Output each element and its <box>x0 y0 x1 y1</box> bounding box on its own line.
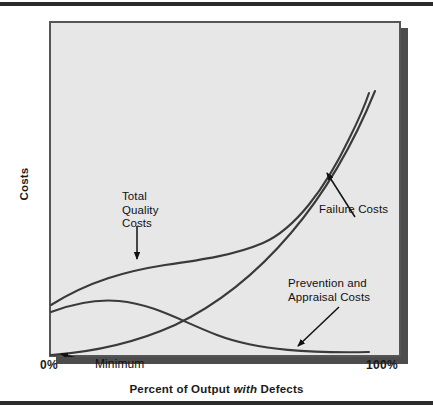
annotation-prevention-appraisal-costs: Prevention and Appraisal Costs <box>288 277 370 304</box>
annotation-failure-costs: Failure Costs <box>319 203 388 217</box>
annotation-total-quality-costs: Total Quality Costs <box>122 190 159 231</box>
y-axis-title: Costs <box>18 154 30 214</box>
figure-root: Costs Percent of Output with Defects 0% … <box>0 0 433 407</box>
page-rule-top <box>0 2 433 6</box>
curve-prevention-appraisal-costs <box>51 300 369 352</box>
x-axis-title: Percent of Output with Defects <box>0 383 433 395</box>
page-rule-bottom <box>0 401 433 405</box>
annotation-minimum: Minimum <box>95 358 144 372</box>
x-axis-title-before: Percent of Output <box>129 383 233 395</box>
curve-total-quality-costs <box>51 93 369 305</box>
curve-failure-costs <box>51 91 375 355</box>
chart-curves <box>49 21 401 357</box>
x-tick-label-0: 0% <box>40 358 58 372</box>
x-axis-title-emphasis: with <box>233 383 257 395</box>
leader-prevention-appraisal-costs <box>298 307 339 346</box>
x-axis-title-after: Defects <box>257 383 303 395</box>
x-tick-label-100: 100% <box>366 358 398 372</box>
